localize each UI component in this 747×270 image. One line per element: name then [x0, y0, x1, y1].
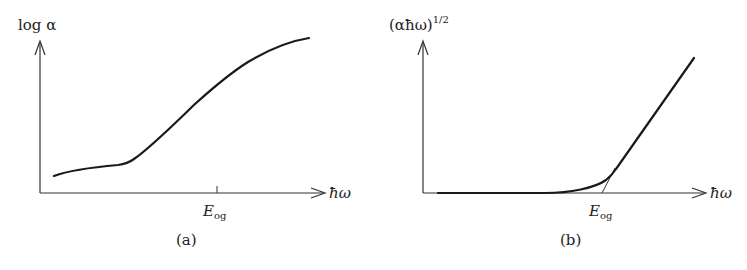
caption-a: (a)	[176, 231, 197, 249]
y-axis-label-b: (αħω)1/2	[389, 14, 449, 34]
x-axis-label-a: ħω	[329, 184, 351, 202]
tauc-curve-b	[438, 58, 694, 193]
caption-b: (b)	[560, 231, 581, 249]
x-axis-label-b: ħω	[710, 184, 732, 202]
y-axis-label-a: log α	[18, 16, 56, 34]
panel-b: (αħω)1/2 ħω Eog (b)	[389, 14, 732, 249]
absorption-curve-a	[54, 38, 309, 176]
eog-label-a: Eog	[202, 202, 227, 221]
eog-label-b: Eog	[588, 202, 613, 221]
panel-a: log α ħω Eog (a)	[18, 16, 351, 249]
figure: log α ħω Eog (a) (αħω)1/2 ħω Eog (b)	[0, 0, 747, 270]
